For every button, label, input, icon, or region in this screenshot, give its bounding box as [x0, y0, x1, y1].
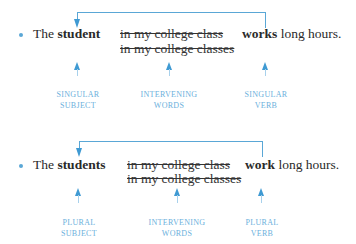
bullet-icon	[19, 164, 23, 168]
arrow-down-icon	[76, 148, 82, 157]
arrow-stem	[177, 195, 178, 203]
label-line: SUBJECT	[54, 228, 104, 239]
label-line: SINGULAR	[52, 89, 104, 100]
label-verb: PLURAL VERB	[240, 217, 284, 239]
intervening-phrase-1: in my college class	[120, 26, 223, 42]
sentence-start: The students	[33, 157, 105, 173]
arrow-stem	[261, 195, 262, 203]
label-subject: PLURAL SUBJECT	[54, 217, 104, 239]
rest-of-sentence: long hours.	[281, 26, 342, 41]
article: The	[33, 26, 54, 41]
label-line: VERB	[240, 100, 292, 111]
sentence-start: The student	[33, 26, 100, 42]
label-line: VERB	[240, 228, 284, 239]
connector-horizontal-line	[79, 141, 263, 142]
label-line: INTERVENING	[135, 89, 203, 100]
label-intervening: INTERVENING WORDS	[143, 217, 211, 239]
label-line: SINGULAR	[240, 89, 292, 100]
intervening-phrase-2: in my college classes	[120, 41, 234, 57]
sentence-end: works long hours.	[242, 26, 341, 42]
subject-word: student	[57, 26, 100, 41]
connector-horizontal-line	[77, 12, 266, 13]
label-verb: SINGULAR VERB	[240, 89, 292, 111]
label-subject: SINGULAR SUBJECT	[52, 89, 104, 111]
arrow-stem	[77, 69, 78, 76]
label-line: PLURAL	[54, 217, 104, 228]
article: The	[33, 157, 54, 172]
subject-word: students	[57, 157, 105, 172]
verb-word: work	[245, 157, 275, 172]
label-line: SUBJECT	[52, 100, 104, 111]
label-line: INTERVENING	[143, 217, 211, 228]
sentence-end: work long hours.	[245, 157, 339, 173]
arrow-stem	[265, 69, 266, 76]
label-line: WORDS	[143, 228, 211, 239]
label-line: WORDS	[135, 100, 203, 111]
label-intervening: INTERVENING WORDS	[135, 89, 203, 111]
verb-word: works	[242, 26, 277, 41]
connector-verb-drop-line	[262, 141, 263, 157]
arrow-stem	[78, 195, 79, 203]
rest-of-sentence: long hours.	[278, 157, 339, 172]
bullet-icon	[19, 33, 23, 37]
arrow-stem	[169, 69, 170, 76]
label-line: PLURAL	[240, 217, 284, 228]
intervening-phrase-2: in my college classes	[127, 171, 241, 187]
